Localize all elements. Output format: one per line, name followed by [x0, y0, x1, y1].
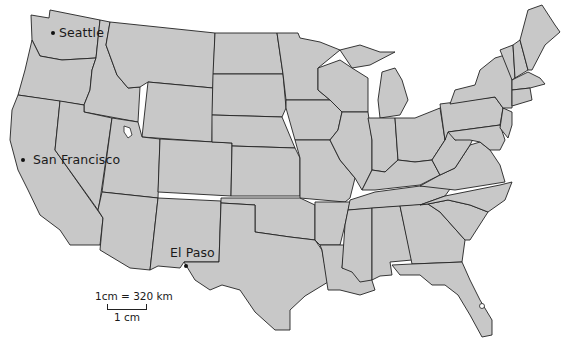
- state-kansas: [231, 146, 300, 196]
- state-wyoming: [142, 82, 213, 142]
- state-north-dakota: [213, 33, 283, 74]
- state-maine: [520, 5, 560, 70]
- us-map: [0, 0, 564, 344]
- lake-okeechobee: [480, 304, 485, 309]
- city-label-seattle: Seattle: [59, 25, 104, 40]
- state-arizona: [98, 192, 158, 270]
- state-south-dakota: [212, 74, 286, 117]
- scale-ratio-label: 1cm = 320 km: [95, 290, 173, 302]
- seattle-dot: [51, 31, 55, 35]
- state-connecticut: [512, 88, 532, 106]
- state-michigan-lower: [378, 68, 408, 118]
- el-paso-dot: [184, 264, 188, 268]
- scale-bar-label: 1 cm: [114, 311, 140, 323]
- city-label-el-paso: El Paso: [170, 245, 215, 260]
- state-florida: [392, 262, 492, 337]
- state-colorado: [158, 139, 232, 196]
- scale-bar: [107, 304, 147, 310]
- san-francisco-dot: [21, 158, 25, 162]
- state-montana: [106, 22, 215, 88]
- state-michigan-upper: [340, 45, 395, 68]
- state-iowa: [286, 100, 342, 140]
- state-nebraska: [212, 115, 295, 148]
- city-label-san-francisco: San Francisco: [33, 152, 120, 167]
